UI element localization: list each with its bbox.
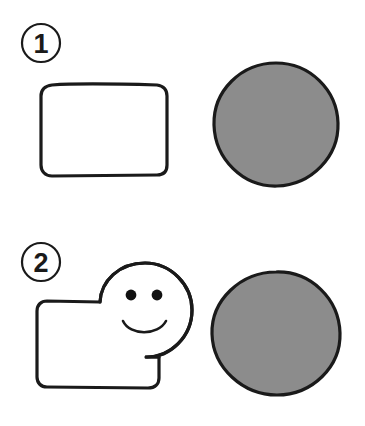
left-eye-icon: [126, 290, 137, 301]
gray-circle-2: [212, 272, 340, 395]
plain-rectangle: [41, 84, 167, 176]
gray-circle-1: [214, 63, 338, 186]
composite-outline: [37, 263, 192, 388]
smiley-face-composite: [37, 263, 192, 388]
drawing-sheet: 1 2: [0, 0, 365, 426]
badge-label-1: 1: [33, 29, 48, 59]
row-1: 1: [22, 24, 338, 186]
step-badge-2: 2: [22, 243, 60, 281]
row-2: 2: [22, 243, 340, 395]
shapes-canvas: 1 2: [0, 0, 365, 426]
right-eye-icon: [152, 290, 163, 301]
step-badge-1: 1: [22, 24, 60, 62]
badge-label-2: 2: [33, 248, 48, 278]
